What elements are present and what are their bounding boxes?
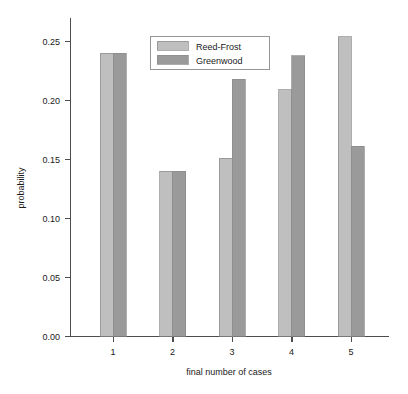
y-tick-label-2: 0.10: [42, 214, 60, 224]
x-axis-title: final number of cases: [186, 367, 272, 377]
y-axis-title: probability: [16, 167, 26, 209]
bars-group: [100, 37, 364, 336]
bar-greenwood-5: [351, 146, 364, 336]
legend-label-greenwood: Greenwood: [196, 56, 243, 66]
bar-greenwood-3: [232, 79, 245, 336]
bar-greenwood-1: [113, 53, 126, 336]
y-tick-label-4: 0.20: [42, 96, 60, 106]
bar-reed-frost-3: [219, 158, 232, 336]
bar-reed-frost-1: [100, 53, 113, 336]
bar-reed-frost-2: [160, 171, 173, 336]
legend-swatch-greenwood: [157, 55, 188, 64]
bar-chart-canvas: 0.00 0.05 0.10 0.15 0.20 0.25 probabilit…: [0, 0, 408, 394]
x-axis-ticks: [114, 337, 352, 343]
x-axis-tick-labels: 12345: [110, 347, 353, 357]
chart-figure: 0.00 0.05 0.10 0.15 0.20 0.25 probabilit…: [0, 0, 408, 394]
bar-greenwood-2: [173, 171, 186, 336]
x-tick-label-1: 1: [110, 347, 115, 357]
x-tick-label-4: 4: [289, 347, 294, 357]
y-tick-label-1: 0.05: [42, 273, 60, 283]
x-tick-label-5: 5: [348, 347, 353, 357]
x-tick-label-2: 2: [170, 347, 175, 357]
legend-label-reed-frost: Reed-Frost: [196, 42, 242, 52]
x-tick-label-3: 3: [229, 347, 234, 357]
bar-reed-frost-5: [338, 37, 351, 336]
y-tick-label-5: 0.25: [42, 37, 60, 47]
y-axis-ticks: [65, 42, 71, 337]
bar-reed-frost-4: [279, 90, 292, 336]
y-axis-tick-labels: 0.00 0.05 0.10 0.15 0.20 0.25: [42, 37, 60, 342]
y-tick-label-3: 0.15: [42, 155, 60, 165]
legend[interactable]: Reed-Frost Greenwood: [151, 37, 270, 70]
y-tick-label-0: 0.00: [42, 332, 60, 342]
bar-greenwood-4: [292, 56, 305, 336]
legend-swatch-reed-frost: [157, 41, 188, 50]
